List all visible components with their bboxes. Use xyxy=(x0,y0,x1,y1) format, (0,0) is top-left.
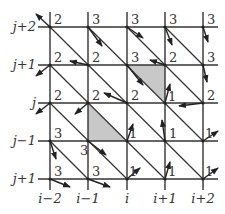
node-value: 1 xyxy=(168,89,176,104)
node-value: 3 xyxy=(92,12,100,27)
node-value: 3 xyxy=(207,12,215,27)
x-axis-labels: i−2 i−1 i i+1 i+2 xyxy=(38,191,214,206)
node-value: 2 xyxy=(207,88,215,103)
node-value: 2 xyxy=(92,50,100,65)
node-value: 3 xyxy=(54,164,62,179)
node-value: 3 xyxy=(207,50,215,65)
y-label: j+1 xyxy=(10,57,36,72)
node-value: 2 xyxy=(54,88,62,103)
node-value: 1 xyxy=(205,126,213,141)
node-value: 3 xyxy=(54,126,62,141)
x-label: i−2 xyxy=(38,191,61,206)
node-value: 1 xyxy=(129,164,137,179)
node-value: 2 xyxy=(131,88,139,103)
y-label: j−1 xyxy=(10,133,36,148)
x-label: i−1 xyxy=(76,191,99,206)
node-value: 2 xyxy=(54,12,62,27)
grid-diagram: 2 3 3 3 3 2 2 3 2 3 2 2 2 1 2 3 3 1 1 1 … xyxy=(0,0,225,214)
x-label: i xyxy=(125,191,129,206)
node-value: 3 xyxy=(80,143,88,158)
node-value-labels: 2 3 3 3 3 2 2 3 2 3 2 2 2 1 2 3 3 1 1 1 … xyxy=(54,12,215,179)
y-axis-labels: j+2 j+1 j j−1 j+1 xyxy=(10,19,36,186)
y-label: j+2 xyxy=(10,19,36,34)
node-value: 3 xyxy=(131,50,139,65)
y-label: j+1 xyxy=(10,171,36,186)
node-value: 3 xyxy=(169,12,177,27)
node-value: 2 xyxy=(92,88,100,103)
node-value: 1 xyxy=(205,164,213,179)
node-value: 1 xyxy=(129,126,137,141)
x-label: i+1 xyxy=(153,191,176,206)
node-value: 1 xyxy=(168,164,176,179)
node-value: 3 xyxy=(131,12,139,27)
node-value: 2 xyxy=(54,50,62,65)
node-value: 3 xyxy=(92,164,100,179)
x-label: i+2 xyxy=(191,191,214,206)
node-value: 2 xyxy=(169,50,177,65)
node-value: 1 xyxy=(169,126,177,141)
y-label: j xyxy=(29,95,36,110)
